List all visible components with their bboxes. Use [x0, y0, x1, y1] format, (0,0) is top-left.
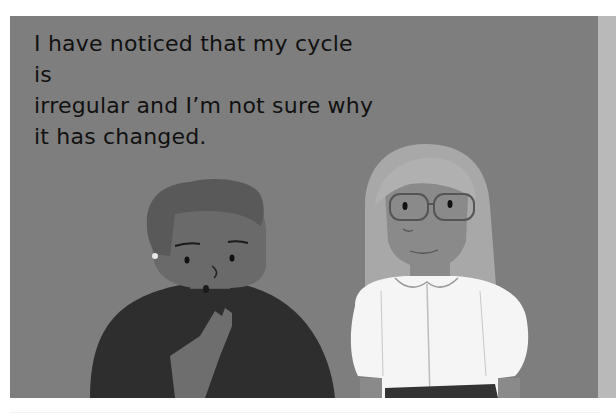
- illustration-panel: I have noticed that my cycle is irregula…: [10, 16, 598, 398]
- person-speaking-figure: [90, 179, 335, 398]
- page-edge-strip: [598, 16, 616, 398]
- person-listening-figure: [351, 144, 528, 398]
- divider: [10, 412, 600, 413]
- earring-icon: [152, 253, 158, 259]
- illustration-scene: [10, 16, 598, 398]
